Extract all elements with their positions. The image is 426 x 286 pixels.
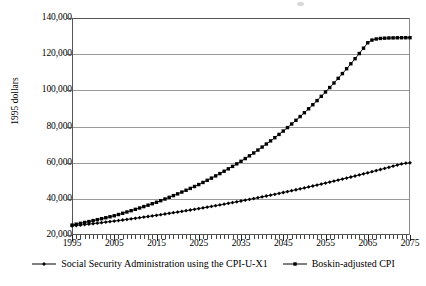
data-point-marker <box>281 191 285 195</box>
x-tick-minor <box>85 235 86 239</box>
x-tick-minor <box>393 235 394 239</box>
x-tick-minor <box>186 235 187 239</box>
data-point-marker <box>231 201 235 205</box>
x-tick-minor <box>355 235 356 239</box>
legend-key-square-icon <box>282 259 308 269</box>
data-point-marker <box>112 219 116 223</box>
data-point-marker <box>176 210 180 214</box>
data-point-marker <box>260 195 264 199</box>
data-point-marker <box>231 165 234 168</box>
data-point-marker <box>400 162 404 166</box>
data-point-marker <box>391 164 395 168</box>
x-tick-minor <box>385 235 386 239</box>
x-tick-minor <box>258 235 259 239</box>
x-tick-minor <box>262 235 263 239</box>
data-point-marker <box>205 205 209 209</box>
data-point-marker <box>264 194 268 198</box>
data-point-marker <box>134 208 137 211</box>
data-point-marker <box>206 179 209 182</box>
data-point-marker <box>159 213 163 217</box>
data-point-marker <box>180 209 184 213</box>
data-point-marker <box>311 184 315 188</box>
data-point-marker <box>353 174 357 178</box>
data-point-marker <box>375 37 378 40</box>
data-point-marker <box>328 180 332 184</box>
x-tick-minor <box>266 235 267 239</box>
data-point-marker <box>379 37 382 40</box>
data-point-marker <box>150 214 154 218</box>
y-axis-title: 1995 dollars <box>10 56 20 146</box>
data-point-marker <box>108 220 112 224</box>
x-tick-minor <box>228 235 229 239</box>
data-point-marker <box>95 221 99 225</box>
data-point-marker <box>370 38 373 41</box>
data-point-marker <box>104 216 107 219</box>
data-point-marker <box>379 168 383 172</box>
data-point-marker <box>172 211 176 215</box>
data-point-marker <box>273 192 277 196</box>
x-tick-minor <box>220 235 221 239</box>
series-line <box>72 38 410 225</box>
data-point-marker <box>42 262 46 266</box>
data-point-marker <box>235 162 238 165</box>
x-tick-label: 2025 <box>189 238 208 248</box>
legend-label: Social Security Administration using the… <box>61 258 267 270</box>
data-point-marker <box>201 206 205 210</box>
data-point-marker <box>197 207 201 211</box>
legend-entry[interactable]: Social Security Administration using the… <box>31 258 267 270</box>
x-tick-minor <box>89 235 90 239</box>
data-point-marker <box>387 36 390 39</box>
x-tick-minor <box>296 235 297 239</box>
x-tick-label: 2015 <box>147 238 166 248</box>
data-point-marker <box>328 86 331 89</box>
data-point-marker <box>117 219 121 223</box>
data-point-marker <box>277 191 281 195</box>
legend-entry[interactable]: Boskin-adjusted CPI <box>282 258 395 270</box>
x-tick-label: 2045 <box>274 238 293 248</box>
x-tick-minor <box>178 235 179 239</box>
data-point-marker <box>104 220 108 224</box>
line-chart: 1995 dollars 140,000120,000100,00080,000… <box>0 0 426 286</box>
data-point-marker <box>180 190 183 193</box>
data-point-marker <box>125 210 128 213</box>
data-point-marker <box>273 136 276 139</box>
data-point-marker <box>404 36 407 39</box>
data-point-marker <box>193 207 197 211</box>
x-tick-minor <box>338 235 339 239</box>
data-point-marker <box>155 201 158 204</box>
data-point-marker <box>70 223 73 226</box>
data-point-marker <box>142 205 145 208</box>
data-point-marker <box>91 219 94 222</box>
data-point-marker <box>167 211 171 215</box>
x-tick-minor <box>300 235 301 239</box>
data-point-marker <box>129 217 133 221</box>
data-point-marker <box>269 139 272 142</box>
data-point-marker <box>248 154 251 157</box>
data-point-marker <box>391 36 394 39</box>
data-point-marker <box>345 67 348 70</box>
data-point-marker <box>146 215 150 219</box>
x-tick-minor <box>131 235 132 239</box>
data-point-marker <box>332 81 335 84</box>
data-point-marker <box>290 122 293 125</box>
data-point-marker <box>282 129 285 132</box>
data-point-marker <box>290 189 294 193</box>
x-tick-minor <box>216 235 217 239</box>
x-tick-minor <box>211 235 212 239</box>
data-point-marker <box>366 171 370 175</box>
x-tick-minor <box>389 235 390 239</box>
data-point-marker <box>184 189 187 192</box>
data-point-marker <box>404 161 408 165</box>
data-point-marker <box>159 199 162 202</box>
data-point-marker <box>244 157 247 160</box>
x-tick-label: 2055 <box>316 238 335 248</box>
data-point-marker <box>184 209 188 213</box>
data-point-marker <box>366 41 369 44</box>
data-point-marker <box>226 201 230 205</box>
data-point-marker <box>210 205 214 209</box>
data-point-marker <box>286 126 289 129</box>
series-1 <box>70 161 412 228</box>
data-point-marker <box>341 72 344 75</box>
data-point-marker <box>387 165 391 169</box>
data-point-marker <box>383 36 386 39</box>
